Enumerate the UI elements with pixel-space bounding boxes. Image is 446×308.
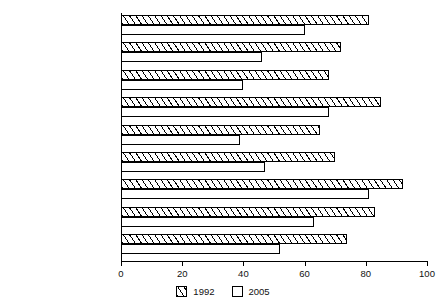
- bar-1992: [121, 179, 403, 189]
- category-row: The Netherlands: [121, 177, 427, 204]
- bar-2005: [121, 52, 262, 62]
- chart-legend: 19922005: [0, 286, 446, 297]
- legend-swatch-plain-icon: [232, 286, 243, 297]
- legend-swatch-hatched-icon: [176, 286, 187, 297]
- category-row: France: [121, 68, 427, 95]
- x-axis-tick: [243, 261, 244, 266]
- x-axis-tick-label: 60: [285, 268, 325, 279]
- legend-entry: 2005: [232, 286, 270, 297]
- category-row: Italy: [121, 150, 427, 177]
- bar-1992: [121, 97, 381, 107]
- x-axis-tick-label: 100: [407, 268, 446, 279]
- x-axis-tick-label: 0: [101, 268, 141, 279]
- bar-chart: Belgium-LuxembourgDenmarkFranceGermany, …: [0, 0, 446, 308]
- x-axis-tick-label: 20: [162, 268, 202, 279]
- x-axis-tick: [366, 261, 367, 266]
- legend-label: 2005: [249, 286, 270, 297]
- bar-1992: [121, 125, 320, 135]
- x-axis-tick: [121, 261, 122, 266]
- bar-2005: [121, 25, 305, 35]
- x-axis-line: [121, 261, 428, 262]
- category-row: Germany, Fed. Rep.: [121, 95, 427, 122]
- plot-area: Belgium-LuxembourgDenmarkFranceGermany, …: [121, 13, 427, 260]
- bar-2005: [121, 135, 240, 145]
- bar-2005: [121, 107, 329, 117]
- bar-1992: [121, 234, 347, 244]
- category-row: Ireland: [121, 123, 427, 150]
- legend-entry: 1992: [176, 286, 214, 297]
- bar-2005: [121, 189, 369, 199]
- x-axis-tick-label: 80: [346, 268, 386, 279]
- category-row: EU-9: [121, 232, 427, 259]
- bar-2005: [121, 217, 314, 227]
- x-axis-tick: [427, 261, 428, 266]
- category-row: Belgium-Luxembourg: [121, 13, 427, 40]
- bar-2005: [121, 80, 243, 90]
- bar-2005: [121, 244, 280, 254]
- bar-1992: [121, 207, 375, 217]
- category-row: Denmark: [121, 40, 427, 67]
- bar-1992: [121, 152, 335, 162]
- x-axis-tick-label: 40: [223, 268, 263, 279]
- category-row: United Kingdom: [121, 205, 427, 232]
- legend-label: 1992: [193, 286, 214, 297]
- bar-1992: [121, 42, 341, 52]
- x-axis-tick: [305, 261, 306, 266]
- bar-1992: [121, 15, 369, 25]
- x-axis-tick: [182, 261, 183, 266]
- bar-2005: [121, 162, 265, 172]
- bar-1992: [121, 70, 329, 80]
